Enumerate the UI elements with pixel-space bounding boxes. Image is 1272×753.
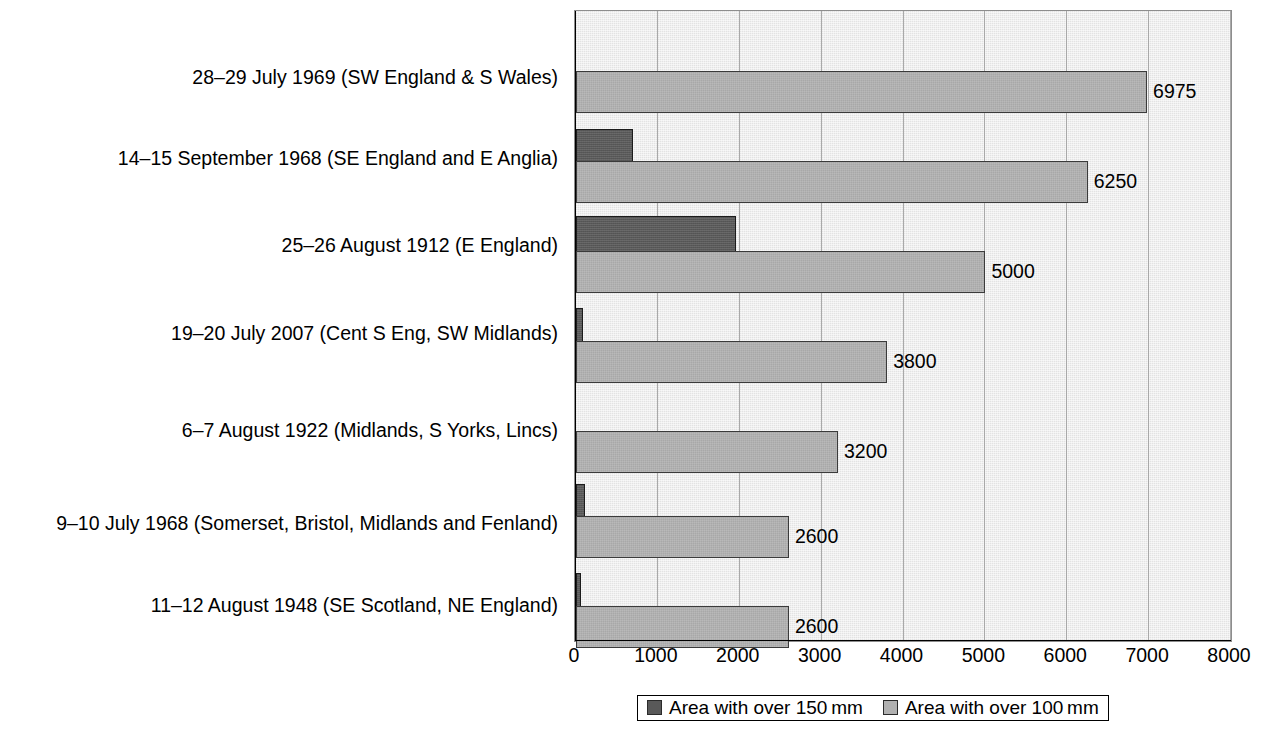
category-axis-labels: 28–29 July 1969 (SW England & S Wales)14…	[0, 10, 566, 640]
category-label: 25–26 August 1912 (E England)	[0, 234, 558, 256]
gridline	[1230, 11, 1231, 641]
category-label: 11–12 August 1948 (SE Scotland, NE Engla…	[0, 594, 558, 616]
x-axis-tick-labels: 010002000300040005000600070008000	[574, 643, 1230, 673]
x-axis-line	[575, 640, 1231, 641]
value-label: 3200	[844, 441, 887, 461]
value-label: 5000	[991, 261, 1034, 281]
legend-swatch-icon	[647, 700, 662, 715]
chart-legend: Area with over 150 mm Area with over 100…	[637, 695, 1109, 721]
y-axis-line	[575, 11, 576, 641]
bar-texture	[577, 432, 837, 472]
x-tick-label: 6000	[1044, 643, 1087, 667]
value-label: 2600	[795, 526, 838, 546]
bar-texture	[577, 342, 886, 382]
bar-over-100mm	[576, 161, 1088, 203]
legend-label: Area with over 150 mm	[669, 698, 863, 717]
bar-over-100mm	[576, 341, 887, 383]
x-tick-label: 8000	[1207, 643, 1250, 667]
bar-texture	[577, 517, 788, 557]
bar-chart: 28–29 July 1969 (SW England & S Wales)14…	[0, 0, 1272, 753]
x-tick-label: 4000	[880, 643, 923, 667]
bar-over-100mm	[576, 71, 1147, 113]
gridline	[1148, 11, 1149, 641]
category-label: 6–7 August 1922 (Midlands, S Yorks, Linc…	[0, 419, 558, 441]
plot-area	[574, 10, 1232, 642]
bar-texture	[577, 252, 984, 292]
bar-texture	[577, 607, 788, 647]
bar-over-100mm	[576, 606, 789, 648]
x-tick-label: 0	[569, 643, 580, 667]
bar-over-100mm	[576, 431, 838, 473]
value-label: 6250	[1094, 171, 1137, 191]
value-label: 3800	[893, 351, 936, 371]
bar-texture	[577, 162, 1087, 202]
x-tick-label: 2000	[716, 643, 759, 667]
x-tick-label: 7000	[1125, 643, 1168, 667]
x-tick-label: 1000	[634, 643, 677, 667]
legend-item-150mm[interactable]: Area with over 150 mm	[647, 698, 863, 717]
bar-texture	[577, 72, 1146, 112]
category-label: 14–15 September 1968 (SE England and E A…	[0, 147, 558, 169]
category-label: 9–10 July 1968 (Somerset, Bristol, Midla…	[0, 512, 558, 534]
value-label: 2600	[795, 616, 838, 636]
bar-over-100mm	[576, 251, 985, 293]
bar-over-100mm	[576, 516, 789, 558]
category-label: 19–20 July 2007 (Cent S Eng, SW Midlands…	[0, 322, 558, 344]
x-tick-label: 5000	[962, 643, 1005, 667]
legend-swatch-icon	[883, 700, 898, 715]
legend-label: Area with over 100 mm	[905, 698, 1099, 717]
legend-item-100mm[interactable]: Area with over 100 mm	[883, 698, 1099, 717]
category-label: 28–29 July 1969 (SW England & S Wales)	[0, 66, 558, 88]
x-tick-label: 3000	[798, 643, 841, 667]
value-label: 6975	[1153, 81, 1196, 101]
